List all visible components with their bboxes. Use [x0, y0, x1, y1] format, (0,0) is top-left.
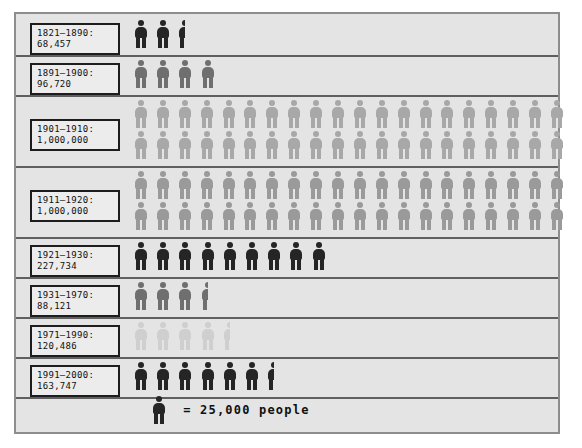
person-icon [201, 242, 215, 270]
icon-line [134, 171, 554, 202]
person-icon [178, 362, 192, 390]
person-icon [506, 100, 520, 128]
person-icon [287, 171, 301, 199]
person-icon [289, 242, 303, 270]
icon-line [134, 100, 554, 131]
person-icon [331, 100, 345, 128]
row-icons [134, 17, 554, 55]
chart-legend: = 25,000 people [16, 392, 558, 428]
legend-label: = 25,000 people [183, 403, 309, 417]
person-icon [309, 171, 323, 199]
person-icon [331, 131, 345, 159]
icon-line [134, 60, 554, 91]
person-icon [156, 282, 170, 310]
icon-line [134, 282, 554, 313]
person-icon [375, 100, 389, 128]
person-icon [156, 20, 170, 48]
person-icon [462, 100, 476, 128]
person-icon [134, 322, 148, 350]
person-icon [353, 131, 367, 159]
person-icon [267, 242, 281, 270]
half-person-icon [267, 362, 274, 390]
icon-line [134, 362, 554, 393]
person-icon [309, 131, 323, 159]
person-icon [419, 100, 433, 128]
person-icon [222, 202, 236, 230]
icon-line [134, 202, 554, 233]
person-icon [243, 131, 257, 159]
person-icon [243, 100, 257, 128]
person-icon [287, 131, 301, 159]
person-icon [265, 171, 279, 199]
person-icon [178, 100, 192, 128]
person-icon [484, 171, 498, 199]
person-icon [134, 60, 148, 88]
person-icon [265, 100, 279, 128]
person-icon [419, 131, 433, 159]
person-icon [223, 362, 237, 390]
person-icon [353, 100, 367, 128]
person-icon [375, 131, 389, 159]
person-icon [201, 60, 215, 88]
person-icon [178, 202, 192, 230]
row-icons [134, 57, 554, 95]
person-icon [156, 100, 170, 128]
person-icon [462, 171, 476, 199]
person-icon [353, 202, 367, 230]
person-icon [331, 171, 345, 199]
person-icon [178, 171, 192, 199]
person-icon [440, 202, 454, 230]
person-icon [134, 202, 148, 230]
person-icon [550, 100, 564, 128]
person-icon [200, 202, 214, 230]
row-label-5: 1921–1930: 227,734 [30, 245, 120, 277]
person-icon [440, 171, 454, 199]
person-icon [375, 171, 389, 199]
person-icon [243, 202, 257, 230]
person-icon [309, 100, 323, 128]
person-icon [201, 322, 215, 350]
person-icon [397, 202, 411, 230]
person-icon [134, 131, 148, 159]
person-icon [419, 171, 433, 199]
person-icon [528, 131, 542, 159]
pictogram-rows: 1821–1890: 68,4571891–1900: 96,7201901–1… [16, 14, 558, 432]
icon-line [134, 20, 554, 51]
person-icon [200, 131, 214, 159]
person-icon [397, 131, 411, 159]
row-label-2: 1891–1900: 96,720 [30, 63, 120, 95]
row-icons [134, 168, 554, 237]
half-person-icon [223, 322, 230, 350]
person-icon [287, 202, 301, 230]
person-icon [201, 362, 215, 390]
person-icon [506, 171, 520, 199]
person-icon [484, 131, 498, 159]
icon-line [134, 131, 554, 162]
person-icon [223, 242, 237, 270]
legend-person-icon [152, 396, 166, 424]
person-icon [243, 171, 257, 199]
person-icon [134, 282, 148, 310]
person-icon [245, 362, 259, 390]
person-icon [528, 100, 542, 128]
row-icons [134, 239, 554, 277]
pictogram-row: 1931–1970: 88,121 [16, 279, 558, 319]
person-icon [245, 242, 259, 270]
person-icon [134, 100, 148, 128]
row-icons [134, 97, 554, 166]
person-icon [506, 131, 520, 159]
person-icon [156, 242, 170, 270]
person-icon [156, 131, 170, 159]
person-icon [222, 131, 236, 159]
person-icon [440, 131, 454, 159]
row-label-1: 1821–1890: 68,457 [30, 23, 120, 55]
row-icons [134, 279, 554, 317]
pictogram-row: 1911–1920: 1,000,000 [16, 168, 558, 239]
person-icon [312, 242, 326, 270]
pictogram-row: 1821–1890: 68,457 [16, 17, 558, 57]
person-icon [331, 202, 345, 230]
icon-line [134, 322, 554, 353]
person-icon [222, 100, 236, 128]
person-icon [156, 362, 170, 390]
person-icon [484, 100, 498, 128]
